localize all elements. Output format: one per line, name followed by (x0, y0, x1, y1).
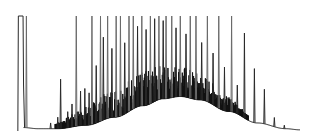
peak-3 (60, 79, 61, 128)
peak-42 (244, 33, 245, 118)
peak-45 (274, 118, 275, 127)
peak-44 (264, 89, 265, 124)
peak-10 (91, 16, 92, 124)
peak-46 (284, 125, 285, 128)
peak-6 (76, 16, 77, 126)
solvent-peak-layer (18, 16, 25, 131)
peak-43 (254, 69, 255, 123)
peak-1 (50, 123, 51, 129)
peaks-layer (26, 16, 285, 129)
chromatogram-chart (0, 0, 315, 137)
peak-0 (26, 16, 27, 128)
peak-20 (133, 16, 134, 109)
peak-40 (231, 16, 232, 112)
solvent-peak (18, 16, 25, 131)
peak-38 (218, 16, 219, 108)
